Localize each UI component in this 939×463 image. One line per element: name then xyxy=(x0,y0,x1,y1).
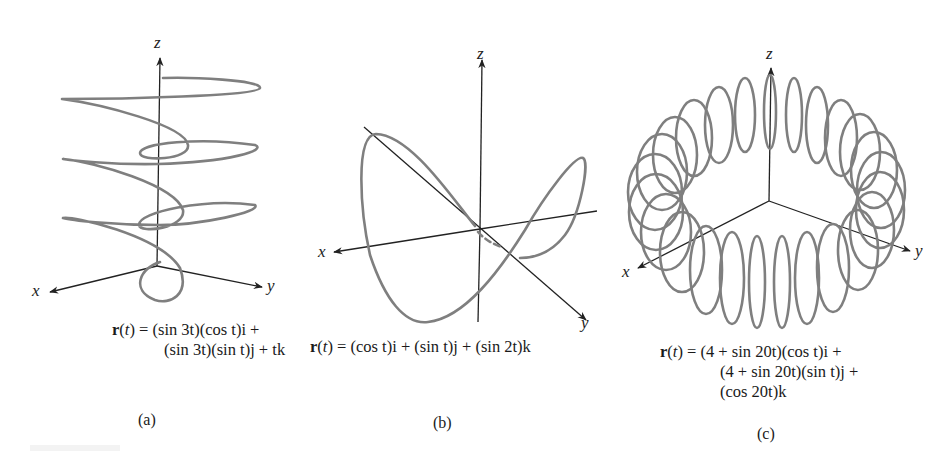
y-axis-label: y xyxy=(915,241,923,261)
helix-curve xyxy=(62,78,260,301)
panel-a: z x y r(t) = (sin 3t)(cos t)i + (sin 3t)… xyxy=(0,0,310,463)
equation-c-line-2: (4 + sin 20t)(sin t)j + xyxy=(660,362,858,381)
toroidal-spiral-curve xyxy=(628,75,905,328)
z-axis-label: z xyxy=(766,44,773,64)
y-axis-label: y xyxy=(581,313,589,333)
saddle-curve-plot xyxy=(300,0,630,330)
faded-footer-text xyxy=(30,445,120,451)
saddle-curve xyxy=(361,134,585,322)
y-axis-label: y xyxy=(267,276,275,296)
y-axis xyxy=(364,127,586,320)
equation-a-line-1: (sin 3t)(cos t)i + xyxy=(152,320,259,339)
equation-b-line-1: (cos t)i + (sin t)j + (sin 2t)k xyxy=(350,337,530,356)
equation-b: r(t) = (cos t)i + (sin t)j + (sin 2t)k xyxy=(310,337,531,357)
equation-c-line-1: (4 + sin 20t)(cos t)i + xyxy=(700,342,841,361)
panel-b: z x y r(t) = (cos t)i + (sin t)j + (sin … xyxy=(300,0,630,463)
caption-b: (b) xyxy=(433,414,452,432)
y-axis xyxy=(157,266,262,287)
x-axis-label: x xyxy=(318,242,326,262)
z-axis xyxy=(157,58,160,266)
equation-a-line-2: (sin 3t)(sin t)j + tk xyxy=(112,340,285,359)
z-axis-label: z xyxy=(154,33,161,53)
z-axis-label: z xyxy=(477,44,484,64)
z-axis xyxy=(769,68,771,201)
equation-a: r(t) = (sin 3t)(cos t)i + (sin 3t)(sin t… xyxy=(112,320,285,360)
panel-c: z x y r(t) = (4 + sin 20t)(cos t)i + (4 … xyxy=(610,0,939,463)
x-axis-label: x xyxy=(32,281,40,301)
caption-c: (c) xyxy=(757,425,775,443)
toroidal-spiral-plot xyxy=(610,0,939,330)
z-axis-negative xyxy=(478,229,480,322)
z-axis xyxy=(480,60,482,229)
saddle-curve-hidden xyxy=(478,232,502,247)
caption-a: (a) xyxy=(138,411,156,429)
x-axis-label: x xyxy=(622,262,630,282)
x-axis xyxy=(334,229,480,252)
x-axis-negative xyxy=(480,211,597,229)
equation-c: r(t) = (4 + sin 20t)(cos t)i + (4 + sin … xyxy=(660,342,858,402)
equation-c-line-3: (cos 20t)k xyxy=(660,382,786,401)
